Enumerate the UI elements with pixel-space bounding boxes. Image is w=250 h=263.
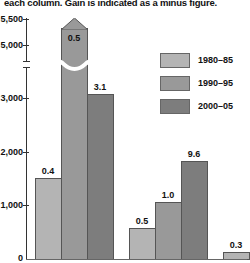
tick-label-3000: 3,000 xyxy=(0,93,23,103)
bar-g1-2000-05 xyxy=(87,94,114,260)
tick-2000 xyxy=(23,152,29,153)
bar-peak-cap xyxy=(61,18,88,30)
tick-label-0: 0 xyxy=(18,253,23,263)
tick-label-5500: 5,500 xyxy=(0,14,23,24)
y-axis-upper xyxy=(26,18,27,62)
tick-label-2000: 2,000 xyxy=(0,147,23,157)
tick-label-1000: 1,000 xyxy=(0,200,23,210)
legend-label-1980-85: 1980–85 xyxy=(198,55,233,65)
legend-swatch-2000-05 xyxy=(160,99,190,114)
legend-swatch-1990-95 xyxy=(160,76,190,91)
tick-label-5000: 5,000 xyxy=(0,40,23,50)
bar-label-g1-1980-85: 0.4 xyxy=(35,166,61,176)
bar-g2-2000-05 xyxy=(181,161,208,260)
legend-swatch-1980-85 xyxy=(160,53,190,68)
tick-3000 xyxy=(23,98,29,99)
legend-label-2000-05: 2000–05 xyxy=(198,101,233,111)
axis-break-mark-lower xyxy=(23,67,30,68)
bar-label-g3-1980-85: 0.3 xyxy=(223,240,249,250)
bar-label-g1-2000-05: 3.1 xyxy=(87,82,113,92)
bar-label-g2-1980-85: 0.5 xyxy=(129,216,155,226)
bar-g1-1980-85 xyxy=(35,178,62,260)
chart-caption: each column. Gain is indicated as a minu… xyxy=(4,0,217,8)
axis-break-mark-upper xyxy=(23,61,30,62)
legend-label-1990-95: 1990–95 xyxy=(198,78,233,88)
x-axis-baseline xyxy=(26,259,247,260)
bar-label-g2-2000-05: 9.6 xyxy=(181,149,207,159)
tick-1000 xyxy=(23,205,29,206)
bar-g2-1990-95 xyxy=(155,202,182,260)
bar-g2-1980-85 xyxy=(129,228,156,260)
axis-break-wave xyxy=(58,58,91,72)
bar-label-g1-1990-95: 0.5 xyxy=(61,33,87,43)
bar-label-g2-1990-95: 1.0 xyxy=(155,190,181,200)
tick-5000 xyxy=(23,45,29,46)
tick-5500 xyxy=(23,19,29,20)
y-axis-lower xyxy=(26,68,27,259)
